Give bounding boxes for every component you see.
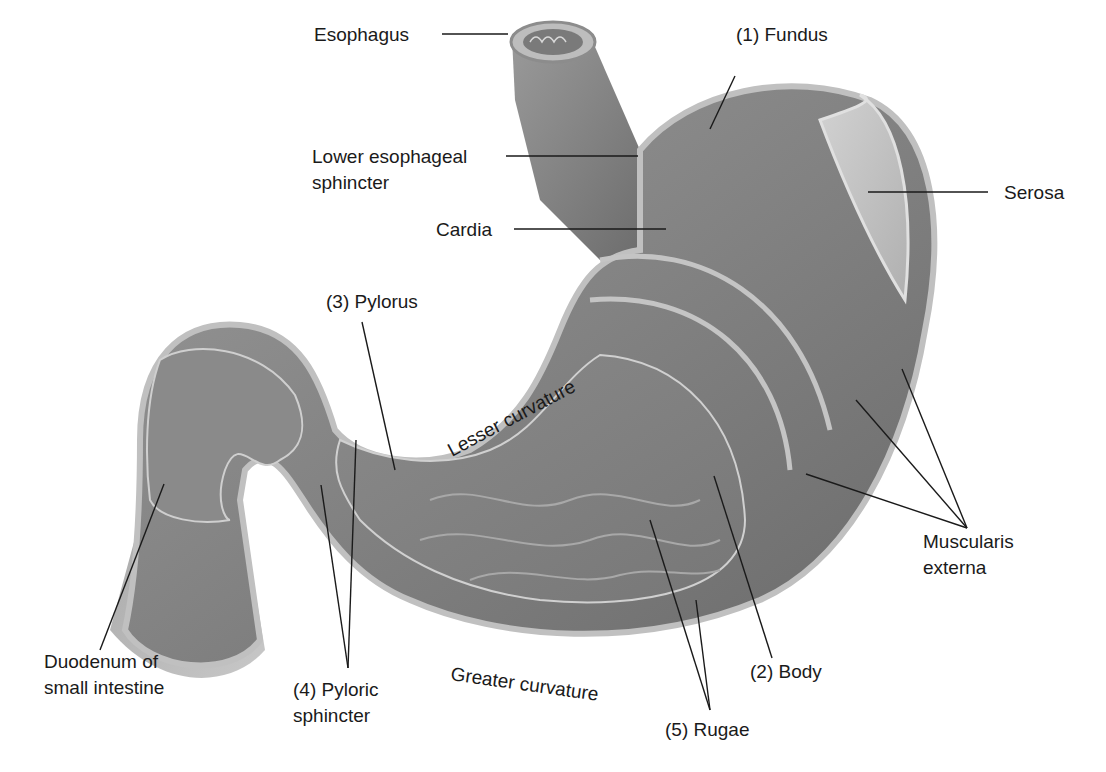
label-muscularis-externa-line2: externa (923, 557, 987, 578)
label-duodenum-line2: small intestine (44, 677, 164, 698)
label-serosa: Serosa (1004, 182, 1065, 203)
label-muscularis-externa-line1: Muscularis (923, 531, 1014, 552)
label-pyloric-sphincter-line2: sphincter (293, 705, 371, 726)
label-pyloric-sphincter-line1: (4) Pyloric (293, 679, 379, 700)
stomach-diagram: Esophagus (1) Fundus Lower esophageal sp… (0, 0, 1106, 772)
label-lower-esophageal-sphincter-line2: sphincter (312, 172, 390, 193)
label-greater-curvature: Greater curvature (449, 663, 599, 705)
label-fundus: (1) Fundus (736, 24, 828, 45)
label-lower-esophageal-sphincter-line1: Lower esophageal (312, 146, 467, 167)
stomach-body-shape (125, 86, 934, 665)
label-cardia: Cardia (436, 219, 492, 240)
label-duodenum-line1: Duodenum of (44, 651, 159, 672)
label-body: (2) Body (750, 661, 822, 682)
label-esophagus: Esophagus (314, 24, 409, 45)
label-rugae: (5) Rugae (665, 719, 750, 740)
label-pylorus: (3) Pylorus (326, 291, 418, 312)
